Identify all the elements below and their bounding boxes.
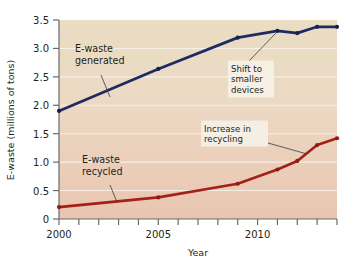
x-axis-title: Year (187, 247, 208, 258)
y-axis-ticks (53, 20, 59, 219)
y-tick-label: 0 (43, 214, 49, 225)
y-tick-label: 1.0 (33, 157, 49, 168)
x-axis-ticks (59, 219, 337, 225)
y-tick-label: 3.0 (33, 43, 49, 54)
y-tick-label: 2.5 (33, 72, 49, 83)
annotation-increase-line2: recycling (204, 134, 243, 144)
x-tick-label: 2000 (46, 229, 71, 240)
x-tick-label: 2010 (245, 229, 270, 240)
y-axis-title: E-waste (millions of tons) (5, 60, 16, 180)
series-label-recycled-line2: recycled (82, 166, 123, 177)
series-label-recycled-line1: E-waste (82, 154, 120, 165)
x-tick-label: 2005 (146, 229, 171, 240)
y-tick-label: 1.5 (33, 129, 49, 140)
y-tick-label: 2.0 (33, 100, 49, 111)
series-label-recycled: E-waste recycled (82, 154, 123, 177)
x-axis-tick-labels: 2000 2005 2010 (46, 229, 270, 240)
annotation-increase-line1: Increase in (204, 124, 251, 134)
series-label-generated-line1: E-waste (75, 43, 113, 54)
annotation-shift-line3: devices (231, 85, 264, 95)
annotation-shift-to-smaller-devices: Shift to smaller devices (231, 64, 264, 95)
annotation-shift-line1: Shift to (231, 64, 262, 74)
annotation-shift-line2: smaller (231, 74, 263, 84)
y-tick-label: 0.5 (33, 186, 49, 197)
chart-figure: 3.5 3.0 2.5 2.0 1.5 1.0 0.5 0 2000 2005 … (0, 0, 354, 267)
series-label-generated-line2: generated (75, 55, 125, 66)
y-axis-tick-labels: 3.5 3.0 2.5 2.0 1.5 1.0 0.5 0 (33, 15, 49, 225)
line-chart: 3.5 3.0 2.5 2.0 1.5 1.0 0.5 0 2000 2005 … (0, 0, 354, 267)
y-tick-label: 3.5 (33, 15, 49, 26)
